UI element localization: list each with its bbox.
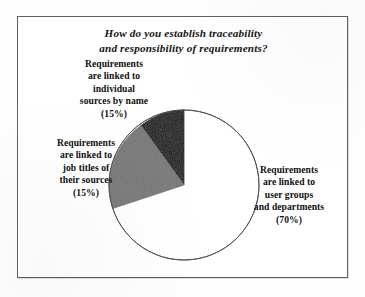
pie-label-line: Requirements xyxy=(46,58,182,70)
pie-label-line: and departments xyxy=(230,201,348,213)
pie-label-line: user groups xyxy=(230,189,348,201)
figure-frame: How do you establish traceability and re… xyxy=(17,16,348,278)
pie-label-line: are linked to xyxy=(22,149,150,161)
pie-label-line: Requirements xyxy=(22,137,150,149)
pie-label-line: are linked to xyxy=(230,176,348,188)
pie-label-percent: (15%) xyxy=(22,187,150,199)
pie-label-line: their sources xyxy=(22,174,150,186)
pie-label-line: individual xyxy=(46,83,182,95)
pie-label-job-titles: Requirements are linked to job titles of… xyxy=(22,137,150,199)
pie-label-user-groups: Requirements are linked to user groups a… xyxy=(230,164,348,226)
scanned-page: How do you establish traceability and re… xyxy=(0,0,365,297)
pie-label-line: are linked to xyxy=(46,70,182,82)
pie-label-line: job titles of xyxy=(22,162,150,174)
pie-label-individual-sources: Requirements are linked to individual so… xyxy=(46,58,182,120)
pie-label-line: sources by name xyxy=(46,95,182,107)
pie-label-percent: (15%) xyxy=(46,108,182,120)
pie-label-line: Requirements xyxy=(230,164,348,176)
pie-label-percent: (70%) xyxy=(230,214,348,226)
